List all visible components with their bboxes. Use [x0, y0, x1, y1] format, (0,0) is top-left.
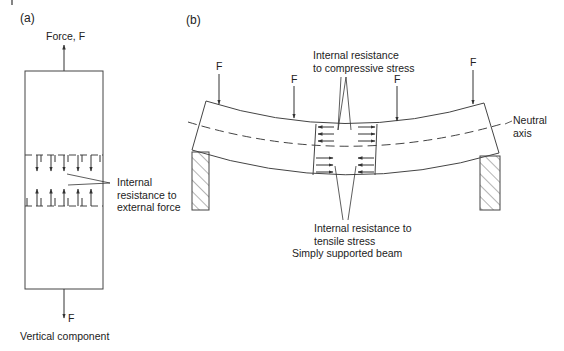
- compressive-annotation: Internal resistance to compressive stres…: [313, 49, 415, 74]
- force-label-3: F: [394, 73, 400, 86]
- beam-left-end: [192, 101, 206, 150]
- beam-bottom-edge: [192, 150, 499, 175]
- section-right: [375, 124, 377, 175]
- top-force-label: Force, F: [46, 30, 85, 43]
- panel-a-drawing: [25, 45, 110, 318]
- diagram-canvas: [0, 0, 564, 351]
- beam-top-edge: [206, 101, 484, 124]
- panel-a-caption: Vertical component: [20, 330, 109, 343]
- bottom-force-label: F: [68, 312, 74, 325]
- force-label-2: F: [291, 73, 297, 86]
- vertical-block: [25, 71, 103, 289]
- right-support: [480, 156, 500, 210]
- panel-b-drawing: [188, 70, 512, 220]
- leader-line: [67, 174, 110, 183]
- force-label-1: F: [216, 60, 222, 73]
- annotation-internal-resistance-a: Internal resistance to external force: [117, 176, 181, 214]
- tensile-annotation: Internal resistance to tensile stress: [314, 222, 411, 247]
- panel-a-label: (a): [20, 12, 35, 25]
- neutral-axis-label: Neutral axis: [513, 114, 547, 139]
- panel-b-label: (b): [186, 14, 201, 27]
- panel-b-caption: Simply supported beam: [292, 247, 402, 260]
- neutral-axis-line: [188, 122, 505, 146]
- force-label-4: F: [470, 56, 476, 69]
- left-support: [192, 152, 209, 210]
- leader-line: [68, 183, 110, 185]
- section-left: [313, 124, 316, 175]
